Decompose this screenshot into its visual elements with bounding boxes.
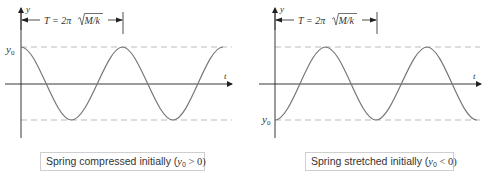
svg-text:T = 2π: T = 2π — [44, 15, 72, 26]
panel-compressed — [5, 8, 232, 138]
y-axis-label: y — [25, 4, 30, 14]
caption-text: Spring stretched initially ( — [311, 155, 428, 167]
caption-compressed: Spring compressed initially (y0 > 0) — [40, 152, 205, 171]
svg-text:M/k: M/k — [338, 15, 355, 26]
panel-stretched — [259, 8, 481, 138]
y-axis-label: y — [279, 4, 284, 14]
caption-stretched: Spring stretched initially (y0 < 0) — [305, 152, 454, 171]
y0-label: y0 — [261, 113, 271, 127]
period-label: T = 2π M/k — [44, 14, 103, 27]
svg-text:M/k: M/k — [84, 15, 101, 26]
caption-text: Spring compressed initially ( — [46, 155, 177, 167]
displacement-curve — [21, 47, 223, 120]
period-label: T = 2π M/k — [298, 14, 357, 27]
svg-text:T = 2π: T = 2π — [298, 15, 326, 26]
caption-relation: > 0) — [186, 156, 206, 167]
t-axis-label: t — [224, 71, 227, 81]
t-axis-label: t — [473, 71, 476, 81]
caption-relation: < 0) — [437, 156, 457, 167]
displacement-curve — [275, 47, 477, 120]
y0-label: y0 — [5, 43, 15, 57]
